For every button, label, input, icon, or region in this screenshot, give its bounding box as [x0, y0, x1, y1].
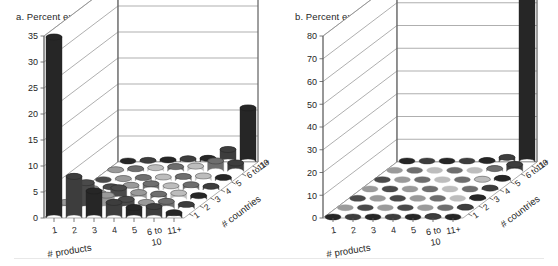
bar-cylinder [459, 158, 475, 164]
bar-cylinder [208, 158, 224, 164]
chart-geometry [240, 105, 256, 162]
bar-cylinder [240, 105, 256, 111]
chart-geometry [519, 0, 535, 162]
bar-cylinder [66, 173, 82, 179]
bar-cylinder [450, 195, 466, 201]
bar-cylinder [111, 185, 127, 191]
bar-cylinder [394, 177, 410, 183]
chart-panel-b: b. Percent export value 0102030405060708… [279, 0, 558, 266]
bar-cylinder [479, 158, 495, 164]
axis-label: # products [326, 242, 372, 260]
bar-cylinder [457, 204, 473, 210]
axis-label: 2 [481, 202, 491, 213]
bar-cylinder [195, 173, 211, 179]
bar-cylinder [46, 34, 62, 40]
axis-label: 4 [111, 225, 118, 236]
axis-label: 20 [28, 109, 38, 119]
axis-label: 35 [28, 31, 38, 41]
bar-cylinder [106, 199, 122, 205]
axis-label: 1 [470, 210, 480, 221]
bar-cylinder [183, 182, 199, 188]
chart-a-plot: 05101520253035123456 to1011+# products12… [0, 0, 279, 266]
bar-cylinder [374, 177, 390, 183]
bar-cylinder [108, 167, 124, 173]
bar-cylinder [203, 183, 219, 189]
bar-cylinder [397, 205, 413, 211]
bar-cylinder [447, 167, 463, 173]
bar-cylinder [168, 164, 184, 170]
bar-cylinder [175, 173, 191, 179]
bar-cylinder [434, 177, 450, 183]
axis-label: 3 [370, 225, 377, 236]
bar-cylinder [151, 191, 167, 197]
bar-cylinder [178, 201, 194, 207]
axis-label: 6 to [146, 225, 162, 237]
bar-cylinder [487, 166, 503, 172]
axis-label: 30 [28, 57, 38, 67]
axis-label: 4 [390, 225, 397, 236]
axis-label: 5 [33, 187, 38, 197]
bar-cylinder [474, 176, 490, 182]
axis-label: # countries [219, 193, 263, 230]
bar-cylinder [467, 167, 483, 173]
bar-cylinder [499, 154, 515, 160]
bar-cylinder [166, 210, 182, 216]
bar-cylinder [390, 195, 406, 201]
chart-geometry [46, 34, 62, 218]
bar-cylinder [407, 167, 423, 173]
bar-cylinder [191, 193, 207, 199]
chart-geometry [66, 173, 82, 218]
axis-label: 5 [234, 178, 244, 189]
chart-panel-a: a. Percent exporting firms 0510152025303… [0, 0, 279, 266]
bar-cylinder [437, 205, 453, 211]
bar-cylinder [131, 190, 147, 196]
axis-label: 0 [33, 213, 38, 223]
bar-cylinder [357, 205, 373, 211]
bar-cylinder [417, 205, 433, 211]
bar-cylinder [148, 165, 164, 171]
bar-cylinder [442, 186, 458, 192]
axis-label: 3 [91, 225, 98, 236]
axis-label: 15 [28, 135, 38, 145]
bar-cylinder [188, 163, 204, 169]
chart-geometry [397, 0, 537, 162]
axis-label: 80 [307, 31, 317, 41]
axis-label: 60 [307, 77, 317, 87]
axis-label: 50 [307, 100, 317, 110]
bar-cylinder [414, 177, 430, 183]
axis-label: 10 [151, 236, 162, 247]
bar-cylinder [382, 186, 398, 192]
chart-b-svg: 01020304050607080123456 to1011+# product… [279, 0, 558, 266]
bar-cylinder [160, 157, 176, 163]
axis-label: 1 [191, 210, 201, 221]
bar-cylinder [494, 175, 510, 181]
bar-cylinder [439, 158, 455, 164]
bar-cylinder [410, 195, 426, 201]
bar-cylinder [228, 160, 244, 166]
axis-label: 0 [312, 213, 317, 223]
bar-cylinder [419, 158, 435, 164]
bar-cylinder [430, 195, 446, 201]
axis-label: 10 [430, 236, 441, 247]
bar-cylinder [180, 156, 196, 162]
axis-label: 11+ [167, 224, 183, 236]
axis-label: 5 [410, 225, 417, 236]
axis-label: 11+ [446, 224, 462, 236]
axis-label: 30 [307, 145, 317, 155]
axis-label: 70 [307, 54, 317, 64]
bar-cylinder [140, 157, 156, 163]
axis-label: 2 [202, 202, 212, 213]
bar-cylinder [220, 146, 236, 152]
bar-cylinder [95, 177, 111, 183]
bar-cylinder [350, 195, 366, 201]
bar-cylinder [402, 186, 418, 192]
axis-label: 1 [330, 225, 337, 236]
bar-cylinder [171, 190, 187, 196]
bar-cylinder [462, 186, 478, 192]
chart-b-plot: 01020304050607080123456 to1011+# product… [279, 0, 558, 266]
axis-label: 25 [28, 83, 38, 93]
axis-label: 3 [492, 194, 502, 205]
axis-label: 1 [51, 225, 58, 236]
bar-cylinder [126, 205, 142, 211]
axis-label: 5 [131, 225, 138, 236]
